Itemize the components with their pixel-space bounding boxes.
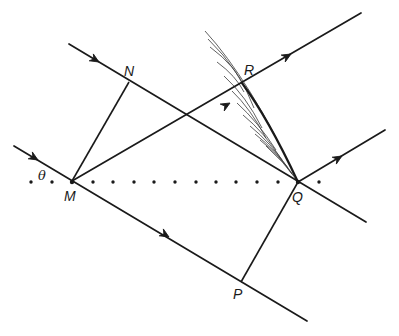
arrow-icon bbox=[220, 100, 232, 111]
scatterer-dot bbox=[152, 180, 155, 183]
scatterer-dot bbox=[132, 180, 135, 183]
lower-incident-ray bbox=[14, 146, 307, 321]
envelope-RQ bbox=[242, 83, 298, 182]
label-M: M bbox=[64, 188, 76, 204]
wavelet-arc bbox=[260, 140, 294, 176]
diagram-canvas: N R M Q P θ bbox=[0, 0, 399, 336]
arrow-icon bbox=[281, 51, 293, 62]
scatterer-dot bbox=[29, 180, 32, 183]
scatterer-dot bbox=[255, 180, 258, 183]
scatterer-dot bbox=[214, 180, 217, 183]
wavelet-arc bbox=[205, 31, 296, 178]
arrow-icon bbox=[332, 153, 344, 164]
huygens-wavelets bbox=[205, 31, 296, 179]
scatterer-dot bbox=[111, 180, 114, 183]
wavelet-arc bbox=[266, 146, 296, 179]
upper-incident-ray bbox=[69, 44, 366, 222]
label-Q: Q bbox=[292, 189, 303, 205]
scatterer-dot bbox=[194, 180, 197, 183]
scatterer-dot bbox=[173, 180, 176, 183]
wavefront-PQ bbox=[241, 182, 298, 282]
label-N: N bbox=[124, 63, 135, 79]
scatterer-dot bbox=[50, 180, 53, 183]
scatterer-dot bbox=[276, 180, 279, 183]
arrow-icon bbox=[89, 54, 101, 65]
arrow-icon bbox=[28, 152, 40, 163]
wavelet-arc bbox=[217, 62, 244, 92]
scatterer-dot bbox=[91, 180, 94, 183]
arrowheads bbox=[28, 51, 344, 241]
scatterer-dot bbox=[234, 180, 237, 183]
incident-wavefront-MN bbox=[72, 82, 129, 181]
label-R: R bbox=[244, 62, 254, 78]
scattered-ray-from-M bbox=[72, 13, 361, 181]
scatterer-dot bbox=[317, 180, 320, 183]
angle-theta-label: θ bbox=[38, 168, 46, 183]
label-P: P bbox=[233, 286, 243, 302]
